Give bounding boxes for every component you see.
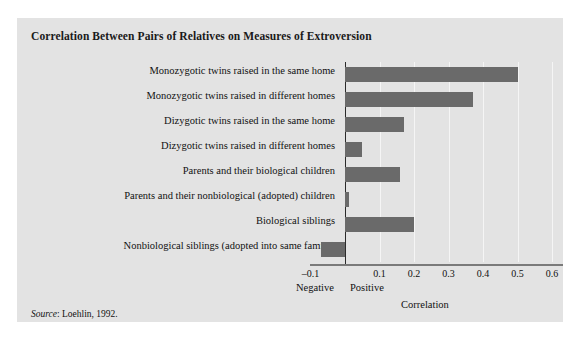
negative-side-label: Negative bbox=[296, 282, 334, 293]
category-label: Parents and their nonbiological (adopted… bbox=[124, 190, 335, 201]
bar-nonbiological-siblings bbox=[321, 242, 345, 257]
x-tick-label: 0.6 bbox=[534, 268, 570, 279]
bar-dizygotic-same-home bbox=[345, 117, 404, 132]
x-axis-line bbox=[310, 264, 563, 266]
category-label: Dizygotic twins raised in different home… bbox=[161, 140, 335, 151]
chart-figure-panel: Correlation Between Pairs of Relatives o… bbox=[17, 18, 563, 322]
chart-row: Monozygotic twins raised in the same hom… bbox=[17, 62, 563, 87]
source-label: Source bbox=[31, 309, 57, 319]
bar-dizygotic-different-homes bbox=[345, 142, 362, 157]
bar-biological-siblings bbox=[345, 217, 414, 232]
category-label: Nonbiological siblings (adopted into sam… bbox=[124, 240, 335, 251]
x-tick-label: 0.1 bbox=[362, 268, 398, 279]
chart-row: Parents and their biological children bbox=[17, 162, 563, 187]
chart-row: Dizygotic twins raised in different home… bbox=[17, 137, 563, 162]
chart-row: Parents and their nonbiological (adopted… bbox=[17, 187, 563, 212]
source-citation: : Loehlin, 1992. bbox=[57, 309, 118, 319]
category-label: Monozygotic twins raised in different ho… bbox=[147, 90, 335, 101]
bar-monozygotic-different-homes bbox=[345, 92, 473, 107]
x-tick-label: 0.3 bbox=[431, 268, 467, 279]
category-label: Dizygotic twins raised in the same home bbox=[164, 115, 335, 126]
positive-side-label: Positive bbox=[350, 282, 384, 293]
x-tick-label: 0.4 bbox=[465, 268, 501, 279]
chart-row: Biological siblings bbox=[17, 212, 563, 237]
bar-parents-biological-children bbox=[345, 167, 400, 182]
x-tick-label: 0.5 bbox=[500, 268, 536, 279]
chart-row: Nonbiological siblings (adopted into sam… bbox=[17, 237, 563, 262]
chart-row: Dizygotic twins raised in the same home bbox=[17, 112, 563, 137]
plot-area: Monozygotic twins raised in the same hom… bbox=[17, 18, 563, 322]
x-axis-title: Correlation bbox=[401, 299, 449, 310]
category-label: Monozygotic twins raised in the same hom… bbox=[150, 65, 335, 76]
category-label: Parents and their biological children bbox=[183, 165, 335, 176]
x-tick-label: 0.2 bbox=[396, 268, 432, 279]
x-tick-label: –0.1 bbox=[293, 268, 329, 279]
source-note: Source: Loehlin, 1992. bbox=[31, 309, 118, 319]
bar-monozygotic-same-home bbox=[345, 67, 518, 82]
category-label: Biological siblings bbox=[256, 215, 335, 226]
bar-parents-adopted-children bbox=[345, 192, 349, 207]
chart-row: Monozygotic twins raised in different ho… bbox=[17, 87, 563, 112]
